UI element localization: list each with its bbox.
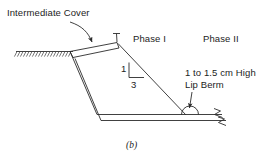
cell-base-lines — [97, 115, 226, 121]
break-mark-icon-lower — [218, 117, 226, 126]
phase-one-label: Phase I — [133, 34, 166, 44]
slope-run-label: 3 — [131, 80, 136, 90]
ground-hatch-icon — [14, 52, 71, 57]
ground-surface — [14, 52, 73, 57]
figure-caption: (b) — [126, 141, 137, 151]
slope-rise-label: 1 — [121, 64, 126, 74]
phase-one-slope-line — [118, 44, 186, 116]
figure-container: Intermediate Cover Phase I Phase II 1 to… — [0, 0, 264, 163]
cell-left-wall — [70, 52, 101, 121]
intermediate-cover-layer — [70, 43, 119, 58]
lip-berm-name-label: Lip Berm — [185, 80, 224, 90]
break-mark-icon-upper — [214, 109, 223, 118]
intermediate-cover-label: Intermediate Cover — [7, 8, 90, 18]
lip-berm-height-label: 1 to 1.5 cm High — [185, 68, 256, 78]
intermediate-cover-leader-arrow — [70, 22, 92, 42]
crest-tick-icon — [113, 34, 120, 43]
slope-ratio-triangle — [129, 63, 144, 78]
phase-two-label: Phase II — [203, 34, 239, 44]
